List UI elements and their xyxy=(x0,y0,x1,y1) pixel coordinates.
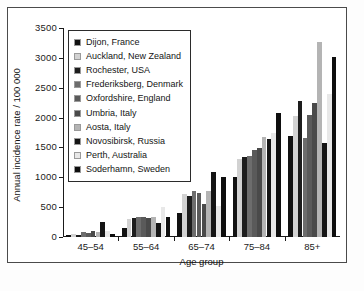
legend-swatch-icon xyxy=(74,67,81,74)
x-group-tick xyxy=(118,237,119,241)
y-tick xyxy=(59,147,63,148)
bar xyxy=(166,217,171,237)
screenshot-root: Annual incidence rate / 100 000 05001000… xyxy=(0,0,364,291)
y-axis-line xyxy=(63,28,64,237)
y-tick xyxy=(59,237,63,238)
y-tick xyxy=(59,177,63,178)
legend-label: Perth, Australia xyxy=(86,151,147,160)
legend-swatch-icon xyxy=(74,39,81,46)
y-tick xyxy=(59,207,63,208)
legend-swatch-icon xyxy=(74,110,81,117)
legend-swatch-icon xyxy=(74,81,81,88)
x-group-tick xyxy=(285,237,286,241)
y-tick-label: 3000 xyxy=(35,53,57,63)
y-tick-label: 3500 xyxy=(35,23,57,33)
legend-item: Perth, Australia xyxy=(74,149,183,163)
legend-item: Umbria, Italy xyxy=(74,106,183,120)
bar xyxy=(110,234,115,237)
legend-item: Aosta, Italy xyxy=(74,120,183,134)
legend-label: Umbria, Italy xyxy=(86,109,137,118)
bar xyxy=(276,113,281,237)
legend-label: Aosta, Italy xyxy=(86,123,131,132)
y-tick xyxy=(59,28,63,29)
y-tick-label: 0 xyxy=(52,232,57,242)
y-tick xyxy=(59,58,63,59)
legend-item: Frederiksberg, Denmark xyxy=(74,78,183,92)
legend-label: Frederiksberg, Denmark xyxy=(86,80,183,89)
legend-swatch-icon xyxy=(74,152,81,159)
x-group-label: 55–64 xyxy=(133,242,159,252)
legend-item: Novosibirsk, Russia xyxy=(74,134,183,148)
legend-label: Rochester, USA xyxy=(86,66,150,75)
legend-label: Oxfordshire, England xyxy=(86,94,171,103)
y-tick xyxy=(59,88,63,89)
bar xyxy=(332,57,337,237)
legend-item: Rochester, USA xyxy=(74,63,183,77)
y-tick-label: 1000 xyxy=(35,173,57,183)
bar xyxy=(221,177,226,237)
legend-swatch-icon xyxy=(74,53,81,60)
y-tick-label: 2000 xyxy=(35,113,57,123)
legend-item: Soderhamn, Sweden xyxy=(74,163,183,177)
y-tick-label: 2500 xyxy=(35,83,57,93)
legend-item: Oxfordshire, England xyxy=(74,92,183,106)
legend-label: Novosibirsk, Russia xyxy=(86,137,165,146)
legend-swatch-icon xyxy=(74,166,81,173)
chart-legend: Dijon, FranceAuckland, New ZealandRoches… xyxy=(68,30,191,182)
legend-swatch-icon xyxy=(74,95,81,102)
x-group-label: 45–54 xyxy=(77,242,103,252)
x-group-label: 85+ xyxy=(304,242,320,252)
y-tick-label: 1500 xyxy=(35,143,57,153)
legend-swatch-icon xyxy=(74,124,81,131)
legend-label: Auckland, New Zealand xyxy=(86,52,181,61)
x-group-tick xyxy=(174,237,175,241)
x-group-label: 75–84 xyxy=(244,242,270,252)
x-group-tick xyxy=(229,237,230,241)
figure-frame: Annual incidence rate / 100 000 05001000… xyxy=(7,7,347,263)
y-tick xyxy=(59,118,63,119)
legend-swatch-icon xyxy=(74,138,81,145)
x-group-label: 65–74 xyxy=(188,242,214,252)
y-tick-label: 500 xyxy=(41,202,57,212)
legend-label: Dijon, France xyxy=(86,38,140,47)
legend-item: Dijon, France xyxy=(74,35,183,49)
x-axis-title: Age group xyxy=(180,256,224,267)
legend-label: Soderhamn, Sweden xyxy=(86,165,170,174)
y-axis-title: Annual incidence rate / 100 000 xyxy=(11,35,22,235)
legend-item: Auckland, New Zealand xyxy=(74,49,183,63)
